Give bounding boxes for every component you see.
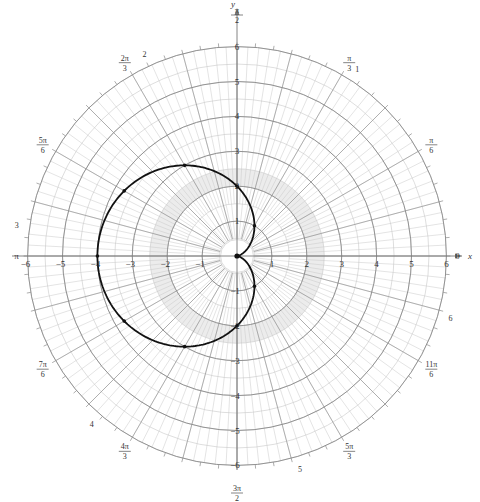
x-axis-label: x bbox=[467, 251, 472, 261]
curve-point-marker bbox=[122, 319, 126, 323]
y-tick-label: −5 bbox=[230, 426, 240, 436]
angle-label-den: 6 bbox=[429, 146, 433, 155]
angle-label-den: 6 bbox=[429, 370, 433, 379]
y-tick-label: 4 bbox=[235, 111, 240, 121]
curve-point-marker bbox=[253, 224, 257, 228]
angle-label-num: 5π bbox=[39, 136, 47, 145]
curve-point-marker bbox=[96, 254, 100, 258]
y-tick-label: 2 bbox=[235, 181, 240, 191]
radian-tick-label: 4 bbox=[90, 420, 94, 429]
angle-label-num: 4π bbox=[121, 442, 129, 451]
radian-tick-label: 2 bbox=[142, 50, 146, 59]
y-tick-label: 5 bbox=[235, 77, 240, 87]
x-tick-label: 2 bbox=[305, 259, 310, 269]
x-tick-label: −4 bbox=[91, 259, 101, 269]
angle-label-num: 11π bbox=[425, 360, 437, 369]
x-tick-label: −5 bbox=[56, 259, 66, 269]
curve-point-marker bbox=[183, 345, 187, 349]
angle-label: 0 bbox=[455, 251, 460, 261]
x-tick-label: 5 bbox=[409, 259, 414, 269]
angle-label: π bbox=[14, 251, 19, 261]
angle-label-den: 6 bbox=[41, 146, 45, 155]
curve-point-marker bbox=[253, 284, 257, 288]
y-tick-label: −1 bbox=[230, 286, 240, 296]
angle-label-den: 3 bbox=[347, 452, 351, 461]
radian-tick-label: 3 bbox=[15, 221, 19, 230]
angle-label-num: 3π bbox=[233, 484, 241, 493]
angle-label-den: 3 bbox=[123, 452, 127, 461]
y-tick-label: 1 bbox=[235, 216, 240, 226]
y-tick-label: −2 bbox=[230, 321, 240, 331]
angle-label-num: 7π bbox=[39, 360, 47, 369]
angle-label-den: 3 bbox=[347, 64, 351, 73]
x-tick-label: 1 bbox=[270, 259, 275, 269]
radian-tick-label: 1 bbox=[355, 65, 359, 74]
radian-tick-label: 6 bbox=[449, 314, 453, 323]
y-tick-label: 6 bbox=[235, 42, 240, 52]
polar-chart: xy−6−5−4−3−2−1123456−6−5−4−3−2−11234560π… bbox=[0, 0, 480, 502]
origin-point bbox=[234, 253, 239, 258]
y-tick-label: −6 bbox=[230, 460, 240, 470]
angle-label-num: 2π bbox=[121, 54, 129, 63]
y-tick-label: −4 bbox=[230, 391, 240, 401]
angle-label-den: 6 bbox=[41, 370, 45, 379]
y-tick-label: 3 bbox=[235, 146, 240, 156]
x-tick-label: 4 bbox=[374, 259, 379, 269]
angle-label-den: 2 bbox=[235, 16, 239, 25]
angle-label-den: 2 bbox=[235, 494, 239, 502]
radian-tick-label: 5 bbox=[298, 465, 302, 474]
angle-label-num: π bbox=[235, 6, 239, 15]
angle-label-den: 3 bbox=[123, 64, 127, 73]
curve-point-marker bbox=[183, 164, 187, 168]
angle-label-num: π bbox=[429, 136, 433, 145]
y-tick-label: −3 bbox=[230, 356, 240, 366]
curve-point-marker bbox=[122, 189, 126, 193]
x-tick-label: −6 bbox=[21, 259, 31, 269]
x-tick-label: 6 bbox=[444, 259, 449, 269]
angle-label-num: 5π bbox=[345, 442, 353, 451]
angle-label-num: π bbox=[347, 54, 351, 63]
x-tick-label: 3 bbox=[339, 259, 344, 269]
x-tick-label: −2 bbox=[160, 259, 170, 269]
x-tick-label: −3 bbox=[126, 259, 136, 269]
x-tick-label: −1 bbox=[195, 259, 205, 269]
